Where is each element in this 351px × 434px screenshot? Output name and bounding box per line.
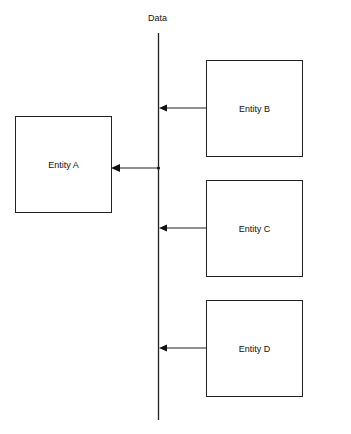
entity-d-label: Entity D — [239, 344, 271, 354]
entity-c-label: Entity C — [239, 224, 271, 234]
entity-b-label: Entity B — [239, 104, 270, 114]
arrow-c-to-bus — [159, 225, 206, 232]
arrow-bus-to-a — [111, 164, 160, 172]
entity-a-box: Entity A — [15, 116, 112, 213]
entity-c-box: Entity C — [206, 180, 303, 277]
entity-b-box: Entity B — [206, 60, 303, 157]
arrow-b-to-bus — [159, 105, 206, 112]
entity-a-label: Entity A — [48, 160, 79, 170]
arrow-d-to-bus — [159, 345, 206, 352]
entity-d-box: Entity D — [206, 300, 303, 397]
